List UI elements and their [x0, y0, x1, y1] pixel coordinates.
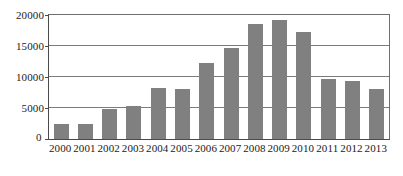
x-axis-tick-label: 2009 — [267, 141, 291, 157]
bars-group — [49, 15, 389, 139]
bar — [296, 32, 311, 139]
x-axis-tick-label: 2000 — [48, 141, 72, 157]
bar — [126, 106, 141, 139]
x-axis-tick-label: 2004 — [145, 141, 169, 157]
bar-slot — [219, 15, 243, 139]
bar — [369, 89, 384, 139]
bar — [54, 124, 69, 140]
x-axis-labels: 2000200120022003200420052006200720082009… — [48, 141, 388, 157]
y-axis-zero-label: 0 — [36, 132, 42, 143]
bar-slot — [365, 15, 389, 139]
y-axis-tick-label: 15000 — [16, 41, 44, 52]
bar — [248, 24, 263, 139]
bar-slot — [292, 15, 316, 139]
bar — [345, 81, 360, 139]
x-axis-tick-label: 2013 — [364, 141, 388, 157]
bar-slot — [170, 15, 194, 139]
y-axis-tick-mark — [45, 139, 49, 140]
bar-slot — [122, 15, 146, 139]
y-axis-tick-label: 10000 — [16, 72, 44, 83]
bar-slot — [243, 15, 267, 139]
x-axis-tick-label: 2008 — [242, 141, 266, 157]
bar-slot — [268, 15, 292, 139]
bar-slot — [195, 15, 219, 139]
bar-chart-figure: 0 5000100001500020000 200020012002200320… — [0, 0, 403, 176]
bar — [78, 124, 93, 139]
bar — [199, 63, 214, 139]
x-axis-tick-label: 2007 — [218, 141, 242, 157]
x-axis-tick-label: 2010 — [291, 141, 315, 157]
bar — [321, 79, 336, 139]
bar — [175, 89, 190, 139]
plot-area: 5000100001500020000 — [48, 14, 390, 140]
y-axis-tick-label: 20000 — [16, 10, 44, 21]
bar-slot — [146, 15, 170, 139]
y-axis-tick-label: 5000 — [22, 103, 44, 114]
bar — [151, 88, 166, 139]
bar-slot — [316, 15, 340, 139]
bar — [102, 109, 117, 139]
bar-slot — [340, 15, 364, 139]
x-axis-tick-label: 2002 — [97, 141, 121, 157]
bar-slot — [73, 15, 97, 139]
bar — [224, 48, 239, 139]
x-axis-tick-label: 2012 — [339, 141, 363, 157]
x-axis-tick-label: 2011 — [315, 141, 339, 157]
bar-slot — [98, 15, 122, 139]
x-axis-tick-label: 2003 — [121, 141, 145, 157]
bar — [272, 20, 287, 139]
bar-slot — [49, 15, 73, 139]
x-axis-tick-label: 2005 — [169, 141, 193, 157]
x-axis-tick-label: 2001 — [72, 141, 96, 157]
x-axis-tick-label: 2006 — [194, 141, 218, 157]
